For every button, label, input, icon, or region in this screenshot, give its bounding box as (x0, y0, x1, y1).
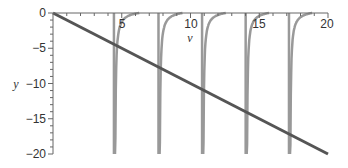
x-tick-15: 15 (252, 17, 266, 31)
curve-branch (160, 13, 183, 154)
x-tick-5: 5 (119, 17, 126, 31)
curve-branch (115, 13, 139, 154)
x-tick-20: 20 (320, 17, 334, 31)
curve-branch (247, 13, 269, 154)
y-tick-minus20: −20 (26, 147, 47, 161)
chart: 0 −5 −10 −15 −20 5 10 15 20 v y (0, 0, 348, 168)
y-tick-minus5: −5 (32, 41, 46, 55)
curve-branch (290, 13, 312, 154)
tick-labels: 0 −5 −10 −15 −20 5 10 15 20 v y (12, 6, 334, 161)
y-axis-label: y (12, 77, 19, 91)
curve-branch (203, 13, 226, 154)
x-axis-label: v (187, 31, 193, 45)
x-tick-10: 10 (184, 17, 198, 31)
y-tick-minus10: −10 (26, 77, 47, 91)
y-tick-minus15: −15 (26, 112, 47, 126)
y-tick-0: 0 (39, 6, 46, 20)
